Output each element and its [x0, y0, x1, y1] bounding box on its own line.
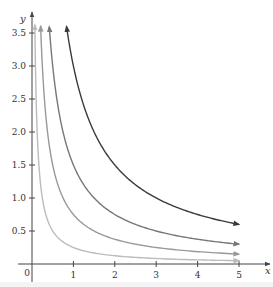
curves — [35, 25, 239, 261]
x-axis-label: x — [265, 265, 271, 276]
y-axis-label: y — [19, 13, 26, 24]
curve-k-1.5 — [49, 27, 239, 245]
x-tick-label: 5 — [236, 270, 242, 280]
y-tick-label: 2.5 — [12, 94, 27, 104]
y-tick-label: 0.5 — [12, 226, 27, 236]
y-tick-label: 1.5 — [12, 160, 27, 170]
bottom-strip — [0, 282, 273, 287]
x-tick-label: 4 — [195, 270, 201, 280]
y-tick-label: 3.5 — [12, 28, 27, 38]
y-tick-label: 3.0 — [12, 61, 27, 71]
x-tick-label: 2 — [112, 270, 118, 280]
y-tick-label: 2.0 — [12, 127, 27, 137]
y-tick-label: 1.0 — [12, 193, 27, 203]
axes — [18, 12, 270, 282]
x-tick-label: 3 — [153, 270, 159, 280]
curve-k-0.75 — [41, 26, 239, 254]
curve-k-3 — [66, 26, 239, 224]
origin-label: 0 — [24, 268, 30, 278]
x-tick-label: 1 — [71, 270, 77, 280]
chart: 123450.51.01.52.02.53.03.5 x y 0 — [0, 0, 273, 287]
